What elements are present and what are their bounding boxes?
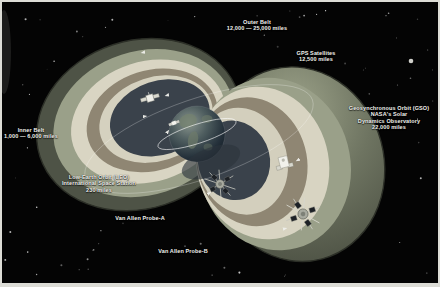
- label-gso: Geosynchronous Orbit (GSO) NASA's Solar …: [338, 105, 438, 131]
- label-inner-belt: Inner Belt 1,000 — 6,000 miles: [2, 127, 60, 140]
- diagram-frame: Outer Belt 12,000 — 25,000 miles GPS Sat…: [0, 0, 440, 287]
- inner-belt-range: 1,000 — 6,000 miles: [2, 133, 60, 139]
- belts-illustration: [2, 2, 438, 283]
- leo-sub: International Space Station: [57, 180, 141, 186]
- continent-east: [202, 115, 213, 123]
- leo-range: 230 miles: [57, 187, 141, 193]
- probe-b-title: Van Allen Probe-B: [146, 248, 220, 254]
- label-gps: GPS Satellites 12,500 miles: [284, 50, 348, 63]
- label-probe-b: Van Allen Probe-B: [146, 248, 220, 254]
- gso-range: 22,000 miles: [338, 124, 438, 130]
- gps-range: 12,500 miles: [284, 56, 348, 62]
- label-outer-belt: Outer Belt 12,000 — 25,000 miles: [199, 19, 315, 32]
- bright-star: [409, 59, 414, 64]
- label-probe-a: Van Allen Probe-A: [103, 215, 177, 221]
- probe-a-title: Van Allen Probe-A: [103, 215, 177, 221]
- label-leo: Low-Earth Orbit (LEO) International Spac…: [57, 174, 141, 193]
- edge-smudge: [2, 10, 11, 94]
- diagram-stage: Outer Belt 12,000 — 25,000 miles GPS Sat…: [2, 2, 438, 283]
- outer-belt-range: 12,000 — 25,000 miles: [199, 25, 315, 31]
